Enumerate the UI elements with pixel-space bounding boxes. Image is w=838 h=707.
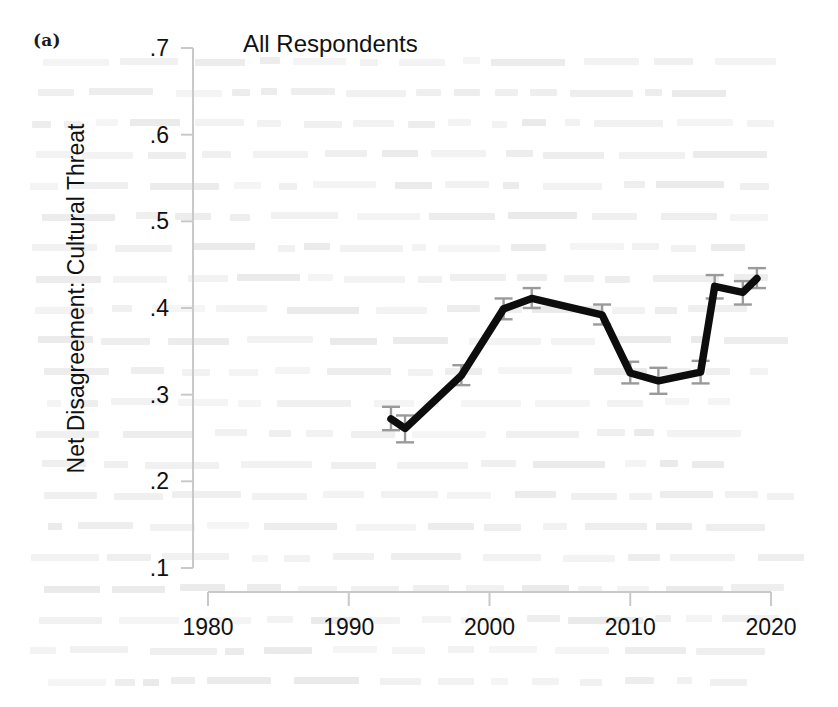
x-tick-label: 2000 <box>435 614 545 641</box>
chart-canvas <box>0 0 838 707</box>
error-bars <box>382 268 766 442</box>
axis-lines <box>181 48 771 606</box>
y-tick-label: .4 <box>125 295 169 322</box>
x-tick-label: 1980 <box>153 614 263 641</box>
y-tick-label: .5 <box>125 208 169 235</box>
data-line <box>391 279 757 429</box>
x-tick-label: 2020 <box>716 614 826 641</box>
x-tick-label: 2010 <box>575 614 685 641</box>
y-tick-label: .7 <box>125 35 169 62</box>
x-tick-label: 1990 <box>294 614 404 641</box>
y-tick-label: .6 <box>125 121 169 148</box>
y-tick-label: .3 <box>125 381 169 408</box>
figure-panel: (a) All Respondents Net Disagreement: Cu… <box>0 0 838 707</box>
y-tick-label: .1 <box>125 555 169 582</box>
y-tick-label: .2 <box>125 468 169 495</box>
plot-area: .1.2.3.4.5.6.7 19801990200020102020 <box>0 0 838 707</box>
